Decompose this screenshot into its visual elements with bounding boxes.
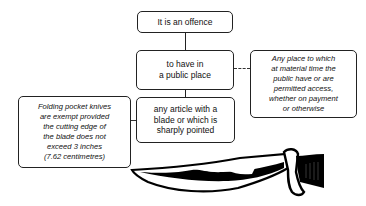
public-place-note-line: public have or are	[269, 74, 338, 84]
folding-knife-note-line: the blade does not	[38, 132, 111, 142]
public-place-note-line: permitted access,	[269, 84, 338, 94]
article-line: any article with a	[154, 104, 217, 115]
public-place-box: to have in a public place	[136, 50, 234, 90]
public-place-note-box: Any place to which at material time the …	[250, 50, 357, 118]
public-place-note-line: or otherwise	[269, 104, 338, 114]
knife-icon	[128, 148, 324, 204]
folding-knife-note-line: exceed 3 inches	[38, 142, 111, 152]
public-place-line: to have in	[159, 59, 211, 70]
dashed-connector-public-place-note	[234, 68, 250, 69]
folding-knife-note-line: the cutting edge of	[38, 122, 111, 132]
offence-label: It is an offence	[157, 17, 212, 28]
folding-knife-note-line: are exempt provided	[38, 112, 111, 122]
public-place-note-line: Any place to which	[269, 54, 338, 64]
folding-knife-note-line: Folding pocket knives	[38, 102, 111, 112]
connector-public-place-to-article	[185, 90, 186, 97]
folding-knife-note-box: Folding pocket knives are exempt provide…	[18, 96, 131, 168]
article-box: any article with a blade or which is sha…	[136, 97, 235, 143]
article-line: sharply pointed	[154, 125, 217, 136]
public-place-note-line: whether on payment	[269, 94, 338, 104]
public-place-line: a public place	[159, 70, 211, 81]
folding-knife-note-line: (7.62 centimetres)	[38, 152, 111, 162]
offence-box: It is an offence	[137, 11, 233, 33]
connector-offence-to-public-place	[185, 33, 186, 50]
public-place-note-line: at material time the	[269, 64, 338, 74]
article-line: blade or which is	[154, 115, 217, 126]
